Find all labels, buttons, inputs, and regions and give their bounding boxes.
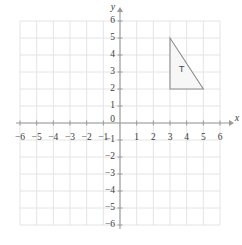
coordinate-plot-svg: −6−5−4−3−2−1123456 654321−1−2−3−4−5−6 0 … [0, 0, 242, 245]
y-tick-label: 4 [110, 49, 115, 59]
y-axis-name-label: y [110, 1, 116, 12]
x-tick-label: −2 [82, 132, 92, 142]
y-tick-label: 3 [110, 66, 115, 76]
y-tick-label: 2 [110, 83, 115, 93]
x-tick-label: 1 [134, 132, 139, 142]
shape-label-t: T [179, 63, 185, 74]
shape-labels: T [179, 63, 185, 74]
x-tick-label: −6 [15, 132, 25, 142]
x-tick-label: −3 [65, 132, 75, 142]
x-tick-label: 3 [168, 132, 173, 142]
y-tick-label: −3 [105, 168, 115, 178]
y-tick-label: −1 [105, 134, 115, 144]
y-axis-arrowhead [117, 7, 123, 12]
y-tick-label: 5 [110, 32, 115, 42]
x-axis-tick-labels: −6−5−4−3−2−1123456 [15, 132, 223, 142]
x-axis-name-label: x [234, 112, 240, 123]
y-tick-label: −2 [105, 151, 115, 161]
x-tick-label: −4 [48, 132, 58, 142]
x-tick-label: 5 [201, 132, 206, 142]
x-tick-label: 6 [218, 132, 223, 142]
y-tick-label: −4 [105, 185, 115, 195]
y-tick-label: −6 [105, 219, 115, 229]
y-tick-label: −5 [105, 202, 115, 212]
coordinate-plane-figure: −6−5−4−3−2−1123456 654321−1−2−3−4−5−6 0 … [0, 0, 242, 245]
y-tick-label: 1 [110, 100, 115, 110]
x-tick-label: 4 [184, 132, 189, 142]
x-tick-label: −5 [32, 132, 42, 142]
origin-label: 0 [110, 114, 115, 124]
y-tick-label: 6 [110, 15, 115, 25]
x-axis-arrowhead [229, 120, 234, 126]
origin-tick-label: 0 [110, 114, 115, 124]
x-tick-label: 2 [151, 132, 156, 142]
axes-lines [16, 7, 234, 229]
